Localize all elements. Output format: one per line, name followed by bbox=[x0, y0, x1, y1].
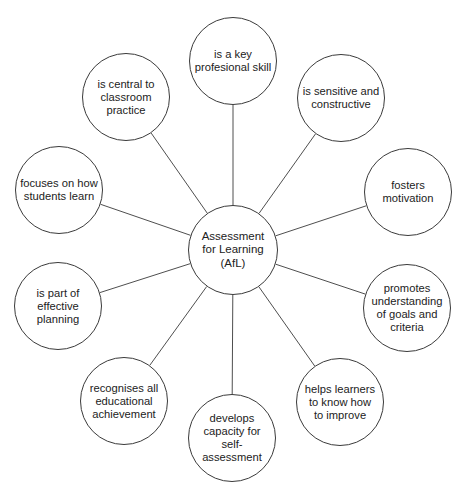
node-label: is part of effective planning bbox=[33, 287, 84, 326]
connector-line bbox=[276, 206, 367, 236]
connector-line bbox=[232, 295, 233, 394]
hub-label: Assessment for Learning (AfL) bbox=[198, 230, 269, 271]
node-label: fosters motivation bbox=[379, 179, 438, 205]
node-central-to-classroom-practice: is central to classroom practice bbox=[82, 53, 170, 141]
node-label: promotes understanding of goals and crit… bbox=[368, 282, 447, 334]
node-label: is a key profesional skill bbox=[191, 48, 275, 74]
connector-line bbox=[276, 264, 366, 294]
node-helps-learners-improve: helps learners to know how to improve bbox=[296, 358, 384, 446]
node-key-professional-skill: is a key profesional skill bbox=[189, 17, 277, 105]
node-label: is central to classroom practice bbox=[93, 78, 158, 117]
connector-line bbox=[259, 134, 315, 213]
node-recognises-achievement: recognises all educational achievement bbox=[80, 357, 168, 445]
afl-mind-map: Assessment for Learning (AfL) is a key p… bbox=[0, 0, 461, 499]
node-label: helps learners to know how to improve bbox=[301, 383, 379, 422]
node-promotes-understanding: promotes understanding of goals and crit… bbox=[363, 264, 451, 352]
node-develops-self-assessment: develops capacity for self- assessment bbox=[188, 394, 276, 482]
connector-line bbox=[100, 264, 190, 293]
connector-line bbox=[150, 287, 207, 366]
hub-node-assessment-for-learning: Assessment for Learning (AfL) bbox=[188, 205, 278, 295]
connector-line bbox=[259, 287, 315, 366]
node-fosters-motivation: fosters motivation bbox=[364, 148, 452, 236]
node-label: develops capacity for self- assessment bbox=[189, 412, 275, 464]
node-label: is sensitive and constructive bbox=[299, 85, 384, 111]
node-focuses-on-how-students-learn: focuses on how students learn bbox=[15, 146, 103, 234]
node-label: recognises all educational achievement bbox=[86, 382, 162, 421]
node-label: focuses on how students learn bbox=[16, 177, 102, 203]
node-part-of-effective-planning: is part of effective planning bbox=[14, 262, 102, 350]
connector-line bbox=[151, 133, 207, 213]
connector-line bbox=[101, 204, 191, 235]
node-sensitive-and-constructive: is sensitive and constructive bbox=[297, 54, 385, 142]
